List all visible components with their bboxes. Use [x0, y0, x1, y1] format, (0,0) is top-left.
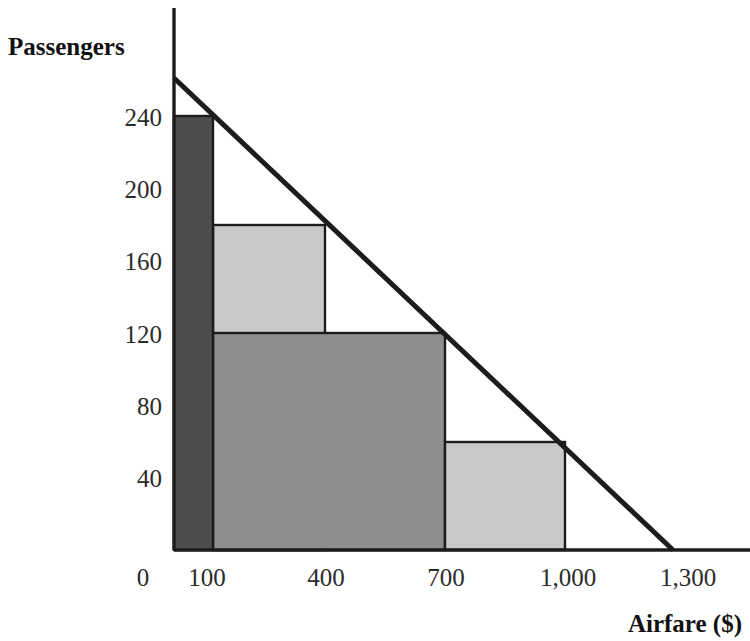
x-tick-label: 400: [307, 564, 345, 591]
y-tick-label: 80: [137, 393, 162, 420]
chart-canvas: 240 200 160 120 80 40 0 100 400 700 1,00…: [0, 0, 750, 641]
x-tick-label: 100: [188, 564, 226, 591]
bar-700-1000: [445, 442, 565, 550]
bar-100-700: [213, 333, 445, 550]
y-tick-label: 40: [137, 465, 162, 492]
x-tick-label: 1,000: [540, 564, 596, 591]
demand-curve-chart: 240 200 160 120 80 40 0 100 400 700 1,00…: [0, 0, 750, 641]
x-tick-label: 0: [137, 564, 150, 591]
y-tick-label: 160: [125, 248, 163, 275]
y-tick-label: 240: [125, 104, 163, 131]
x-tick-label: 700: [427, 564, 465, 591]
bar-0-100: [174, 116, 213, 550]
x-tick-label: 1,300: [660, 564, 716, 591]
y-axis-title: Passengers: [8, 33, 125, 60]
y-tick-label: 120: [125, 321, 163, 348]
y-tick-label: 200: [125, 176, 163, 203]
x-axis-title: Airfare ($): [628, 610, 742, 638]
